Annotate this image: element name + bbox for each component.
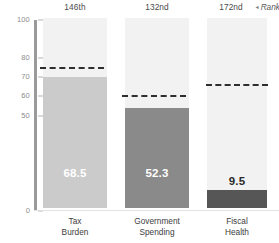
category-label-government-spending: GovernmentSpending	[125, 216, 189, 237]
y-tick-label-0: 100	[17, 16, 30, 24]
chart-container: 146th 132nd 172nd ◂Rank 100 80 70 60 50 …	[0, 0, 279, 243]
rank-note-label: Rank	[261, 2, 279, 12]
y-tick-label-3: 60	[21, 93, 30, 101]
reference-line-2	[206, 84, 268, 86]
y-tick-label-1: 80	[21, 54, 30, 62]
y-tick-label-2: 70	[21, 74, 30, 82]
bar-tax-burden[interactable]	[43, 77, 107, 208]
rank-header-2: 172nd	[198, 3, 264, 11]
rank-header-0: 146th	[34, 3, 116, 11]
rank-header-1: 132nd	[116, 3, 198, 11]
value-label-fiscal-health: 9.5	[207, 176, 267, 188]
bar-fiscal-health[interactable]	[207, 190, 267, 208]
value-label-government-spending: 52.3	[125, 168, 189, 180]
reference-line-0	[40, 67, 104, 69]
y-tick-label-5: 0	[26, 207, 30, 215]
reference-line-1	[122, 95, 186, 97]
y-tick-label-4: 50	[21, 112, 30, 120]
rank-axis-note: ◂Rank	[256, 3, 279, 11]
plot-area: 68.5 52.3 9.5	[34, 18, 279, 208]
category-label-tax-burden: TaxBurden	[43, 216, 107, 237]
category-label-fiscal-health: FiscalHealth	[207, 216, 267, 237]
value-label-tax-burden: 68.5	[43, 168, 107, 180]
rank-marker-icon: ◂	[256, 4, 259, 10]
bar-government-spending[interactable]	[125, 108, 189, 208]
x-axis-baseline	[34, 210, 279, 211]
